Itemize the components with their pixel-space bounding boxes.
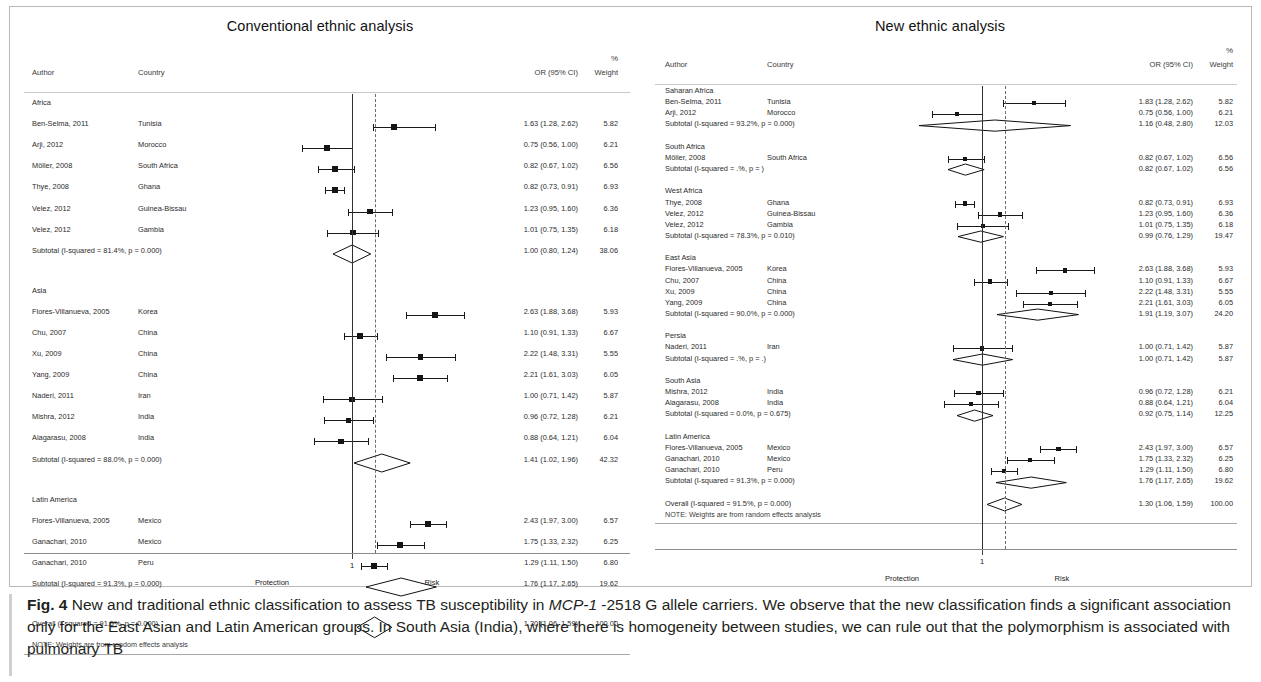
ci-end-cap — [382, 396, 383, 403]
study-author: Yang, 2009 — [32, 370, 69, 379]
or-ci-value: 2.63 (1.88, 3.68) — [500, 307, 578, 316]
x-axis-tick-label: 1 — [332, 561, 372, 570]
or-ci-value: 0.82 (0.73, 0.91) — [1115, 198, 1193, 207]
or-ci-value: 1.16 (0.48, 2.80) — [1115, 119, 1193, 128]
caption-rule — [9, 594, 12, 676]
or-ci-value: 2.21 (1.61, 3.03) — [1115, 298, 1193, 307]
study-country: China — [138, 349, 157, 358]
weight-value: 6.36 — [576, 204, 618, 213]
subtotal-label: Subtotal (I-squared = 91.3%, p = 0.000) — [32, 579, 162, 588]
subtotal-diamond — [354, 454, 410, 472]
study-weight-marker — [1032, 101, 1036, 105]
study-country: Tunisia — [138, 119, 162, 128]
ci-end-cap — [327, 230, 328, 237]
weight-value: 5.87 — [576, 391, 618, 400]
ci-end-cap — [1077, 301, 1078, 308]
column-header-percent: % — [576, 54, 618, 63]
or-ci-value: 0.96 (0.72, 1.28) — [1115, 387, 1193, 396]
ci-end-cap — [1016, 290, 1017, 297]
weight-value: 6.25 — [1191, 454, 1233, 463]
or-ci-value: 2.43 (1.97, 3.00) — [1115, 443, 1193, 452]
or-ci-value: 0.88 (0.64, 1.21) — [500, 433, 578, 442]
subtotal-diamond — [948, 164, 984, 175]
study-author: Möller, 2008 — [665, 153, 705, 162]
subtotal-label: Subtotal (I-squared = 81.4%, p = 0.000) — [32, 246, 162, 255]
weight-value: 38.06 — [576, 246, 618, 255]
subtotal-diamond — [996, 477, 1066, 488]
weight-value: 6.67 — [576, 328, 618, 337]
weight-value: 5.93 — [576, 307, 618, 316]
or-ci-value: 2.22 (1.48, 3.31) — [500, 349, 578, 358]
ci-end-cap — [1094, 267, 1095, 274]
or-ci-value: 0.99 (0.76, 1.29) — [1115, 231, 1193, 240]
axis-label-risk: Risk — [372, 578, 492, 587]
ci-end-cap — [348, 209, 349, 216]
study-country: India — [138, 412, 154, 421]
weight-value: 5.82 — [1191, 97, 1233, 106]
study-author: Chu, 2007 — [32, 328, 66, 337]
study-author: Ben-Selma, 2011 — [665, 97, 722, 106]
ci-end-cap — [984, 156, 985, 163]
study-weight-marker — [357, 333, 363, 339]
column-header-country: Country — [138, 68, 165, 77]
or-ci-value: 1.00 (0.80, 1.24) — [500, 246, 578, 255]
or-ci-value: 1.10 (0.91, 1.33) — [500, 328, 578, 337]
study-weight-marker — [969, 402, 973, 406]
or-ci-value: 1.23 (0.95, 1.60) — [1115, 209, 1193, 218]
or-ci-value: 1.01 (0.75, 1.35) — [1115, 220, 1193, 229]
study-country: Peru — [138, 558, 154, 567]
ci-end-cap — [318, 166, 319, 173]
null-effect-line — [982, 86, 983, 549]
study-weight-marker — [338, 439, 344, 445]
or-ci-value: 1.23 (0.95, 1.60) — [500, 204, 578, 213]
subtotal-diamond — [997, 309, 1079, 320]
study-country: India — [767, 398, 783, 407]
study-country: Mexico — [138, 537, 161, 546]
or-ci-value: 1.75 (1.33, 2.32) — [1115, 454, 1193, 463]
study-author: Ganachari, 2010 — [32, 537, 87, 546]
ci-end-cap — [387, 563, 388, 570]
or-ci-value: 1.91 (1.19, 3.07) — [1115, 309, 1193, 318]
header-rule — [655, 84, 1237, 85]
group-heading: Asia — [32, 286, 46, 295]
subtotal-label: Subtotal (I-squared = 90.0%, p = 0.000) — [665, 309, 795, 318]
axis-label-risk: Risk — [1002, 574, 1122, 583]
group-heading: Africa — [32, 98, 51, 107]
column-header-author: Author — [32, 68, 54, 77]
confidence-interval-line — [373, 127, 435, 128]
weight-value: 6.18 — [576, 225, 618, 234]
study-author: Möller, 2008 — [32, 161, 72, 170]
study-weight-marker — [391, 124, 397, 130]
weight-value: 6.21 — [576, 140, 618, 149]
ci-end-cap — [955, 201, 956, 208]
study-country: China — [767, 276, 786, 285]
weight-value: 12.25 — [1191, 409, 1233, 418]
panel-title: Conventional ethnic analysis — [0, 18, 640, 34]
panel-title: New ethnic analysis — [637, 18, 1243, 34]
or-ci-value: 0.75 (0.56, 1.00) — [500, 140, 578, 149]
ci-end-cap — [948, 156, 949, 163]
study-country: Tunisia — [767, 97, 791, 106]
subtotal-label: Subtotal (I-squared = .%, p = .) — [665, 354, 766, 363]
study-weight-marker — [988, 279, 993, 284]
study-author: Naderi, 2011 — [665, 342, 707, 351]
study-author: Flores-Villanueva, 2005 — [32, 307, 110, 316]
study-country: Morocco — [138, 140, 166, 149]
or-ci-value: 0.82 (0.67, 1.02) — [1115, 153, 1193, 162]
subtotal-diamond — [919, 120, 1071, 131]
study-weight-marker — [418, 354, 423, 359]
ci-end-cap — [464, 312, 465, 319]
ci-end-cap — [386, 354, 387, 361]
or-ci-value: 1.00 (0.71, 1.42) — [1115, 342, 1193, 351]
study-country: Gambia — [767, 220, 793, 229]
weights-note: NOTE: Weights are from random effects an… — [665, 510, 821, 519]
or-ci-value: 1.41 (1.02, 1.96) — [500, 455, 578, 464]
ci-end-cap — [324, 417, 325, 424]
or-ci-value: 0.92 (0.75, 1.14) — [1115, 409, 1193, 418]
column-header-percent: % — [1191, 46, 1233, 55]
group-heading: Saharan Africa — [665, 86, 713, 95]
study-country: India — [138, 433, 154, 442]
weight-value: 6.04 — [1191, 398, 1233, 407]
ci-end-cap — [1007, 279, 1008, 286]
ci-end-cap — [998, 401, 999, 408]
